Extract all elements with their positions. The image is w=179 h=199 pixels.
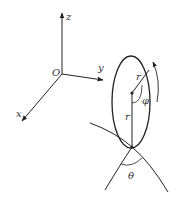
rotation-arrow-icon <box>153 62 158 102</box>
x-axis: x <box>16 74 62 121</box>
y-axis-label: y <box>97 62 104 73</box>
radius-label-lower: r <box>125 111 131 122</box>
rolling-disc: r r φ <box>112 56 158 149</box>
theta-angle-label: θ <box>128 170 134 181</box>
z-axis: z <box>62 11 72 74</box>
diagram-canvas: z y x O r r φ θ <box>0 0 179 199</box>
phi-angle-label: φ <box>142 95 149 106</box>
origin-label: O <box>52 67 60 78</box>
z-axis-label: z <box>65 11 72 22</box>
y-axis: y <box>62 62 104 80</box>
x-axis-label: x <box>16 108 22 119</box>
surface-curves: θ <box>90 123 168 192</box>
